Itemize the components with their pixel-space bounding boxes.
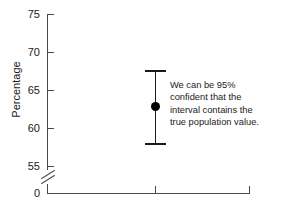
x-axis-line bbox=[47, 193, 250, 194]
y-tick-label-60: 60 bbox=[28, 123, 40, 134]
y-axis-line bbox=[47, 14, 48, 194]
x-tick-mark-2 bbox=[249, 186, 250, 194]
x-tick-mark-1 bbox=[155, 186, 156, 194]
confidence-interval-note: We can be 95% confident that the interva… bbox=[170, 79, 282, 128]
y-tick-mark-60 bbox=[48, 128, 54, 129]
error-bar-lower-cap bbox=[145, 143, 166, 145]
annotation-line-4: true population value. bbox=[170, 116, 282, 128]
y-axis-title: Percentage bbox=[11, 45, 22, 135]
y-tick-mark-65 bbox=[48, 90, 54, 91]
y-tick-mark-55 bbox=[48, 166, 54, 167]
confidence-interval-chart: Percentage 75 70 65 60 55 0 We can be 95… bbox=[0, 0, 287, 217]
annotation-line-3: interval contains the bbox=[170, 104, 282, 116]
y-tick-mark-70 bbox=[48, 52, 54, 53]
axis-break-icon bbox=[38, 168, 58, 186]
y-tick-label-75: 75 bbox=[28, 9, 40, 20]
y-tick-label-70: 70 bbox=[28, 47, 40, 58]
annotation-line-2: confident that the bbox=[170, 91, 282, 103]
point-estimate-marker bbox=[151, 102, 160, 111]
y-tick-mark-75 bbox=[48, 14, 54, 15]
annotation-line-1: We can be 95% bbox=[170, 79, 282, 91]
y-tick-label-0: 0 bbox=[34, 188, 40, 199]
y-tick-label-65: 65 bbox=[28, 85, 40, 96]
confidence-interval-error-bar bbox=[145, 70, 166, 145]
